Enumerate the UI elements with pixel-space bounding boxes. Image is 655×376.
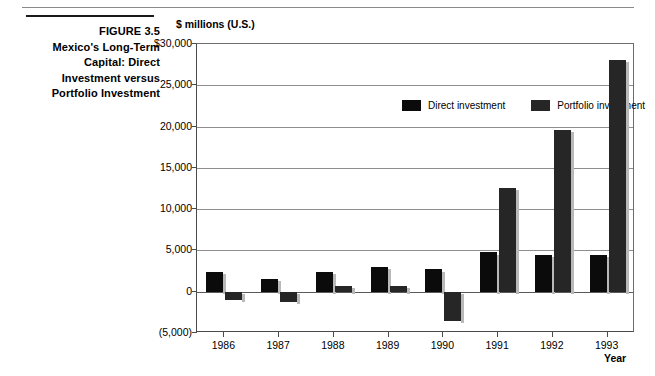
bar-direct-investment-1992 [535, 255, 552, 292]
x-axis-tick-mark [333, 332, 334, 337]
x-axis-tick-label-1987: 1987 [266, 339, 289, 351]
x-axis-title: Year [604, 352, 626, 364]
x-axis-tick-label-1988: 1988 [321, 339, 344, 351]
x-axis-tick-label-1993: 1993 [595, 339, 618, 351]
bar-direct-investment-1989 [371, 267, 388, 292]
bar-direct-investment-1990 [425, 269, 442, 291]
bar-portfolio-investment-1987 [280, 292, 297, 302]
y-axis-tick-label: 15,000 [136, 161, 192, 173]
y-axis-tick-label: $30,000 [136, 37, 192, 49]
x-axis-tick-mark [607, 332, 608, 337]
bar-shadow [516, 190, 519, 294]
plot-area: Direct investment Portfolio investment [196, 43, 634, 332]
bar-portfolio-investment-1986 [225, 292, 242, 300]
y-axis-tick-label: (5,000) [136, 326, 192, 338]
y-axis-tick-label: 10,000 [136, 202, 192, 214]
y-axis-unit-label: $ millions (U.S.) [176, 18, 255, 30]
bar-shadow [352, 288, 355, 294]
y-axis-tick-label: 0 [136, 285, 192, 297]
bar-portfolio-investment-1988 [335, 286, 352, 292]
x-axis-tick-labels: 19861987198819891990199119921993 [196, 332, 634, 362]
bar-direct-investment-1986 [206, 272, 223, 292]
x-axis-tick-mark [497, 332, 498, 337]
x-axis-tick-mark [223, 332, 224, 337]
figure-page: FIGURE 3.5 Mexico's Long-Term Capital: D… [0, 0, 655, 376]
y-axis-tick-labels: $30,00025,00020,00015,00010,0005,0000(5,… [130, 43, 192, 332]
bar-chart: $ millions (U.S.) $30,00025,00020,00015,… [0, 0, 655, 376]
bar-group [197, 44, 633, 331]
x-axis-tick-label-1990: 1990 [431, 339, 454, 351]
bar-shadow [242, 294, 245, 302]
bar-shadow [461, 294, 464, 323]
bar-direct-investment-1987 [261, 279, 278, 292]
bar-direct-investment-1991 [480, 252, 497, 292]
bar-shadow [626, 62, 629, 294]
bar-direct-investment-1993 [590, 255, 607, 292]
y-axis-tick-label: 20,000 [136, 120, 192, 132]
x-axis-tick-mark [278, 332, 279, 337]
x-axis-tick-mark [388, 332, 389, 337]
bar-portfolio-investment-1991 [499, 188, 516, 292]
bar-shadow [297, 294, 300, 304]
y-axis-tick-label: 5,000 [136, 243, 192, 255]
bar-shadow [571, 132, 574, 294]
y-axis-tick-label: 25,000 [136, 78, 192, 90]
bar-portfolio-investment-1993 [609, 60, 626, 292]
x-axis-tick-label-1986: 1986 [212, 339, 235, 351]
bar-portfolio-investment-1990 [444, 292, 461, 321]
bar-shadow [407, 288, 410, 294]
bar-portfolio-investment-1989 [390, 286, 407, 292]
x-axis-tick-mark [552, 332, 553, 337]
bar-portfolio-investment-1992 [554, 130, 571, 292]
x-axis-tick-label-1991: 1991 [485, 339, 508, 351]
x-axis-tick-label-1989: 1989 [376, 339, 399, 351]
bar-direct-investment-1988 [316, 272, 333, 292]
x-axis-tick-mark [442, 332, 443, 337]
x-axis-tick-label-1992: 1992 [540, 339, 563, 351]
